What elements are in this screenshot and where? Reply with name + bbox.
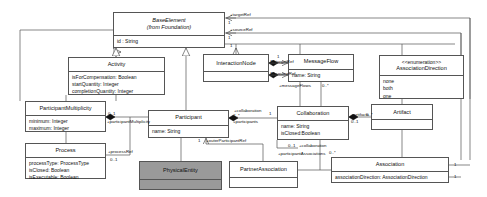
multiplicity-label: 1	[198, 139, 200, 143]
multiplicity-label: 0..*	[366, 113, 373, 117]
class-name-physical-entity: PhysicalEntity	[163, 167, 198, 174]
multiplicity-label: 0..1	[351, 120, 358, 124]
attributes-activity: isForCompensation: Boolean startQuantity…	[69, 71, 164, 94]
class-node-process[interactable]: Process processType: ProcessType isClose…	[25, 143, 106, 179]
multiplicity-label: 1	[269, 112, 271, 116]
attribute: name: String	[281, 123, 345, 130]
attribute: maximum: Integer	[29, 125, 102, 132]
multiplicity-label: 2..*	[233, 114, 240, 118]
attribute: associationDirection: AssociationDirecti…	[335, 174, 445, 181]
class-title-association-direction: <<enumeration>> AssociationDirection	[380, 56, 463, 75]
class-package-base-element: (from Foundation)	[147, 24, 191, 31]
multiplicity-label: 0..*	[329, 151, 336, 155]
attributes-interaction-node	[204, 71, 268, 81]
attributes-association: associationDirection: AssociationDirecti…	[332, 171, 448, 182]
multiplicity-label: 1	[270, 60, 272, 64]
class-name-artifact: Artifact	[393, 109, 410, 116]
class-node-association[interactable]: Association associationDirection: Associ…	[331, 157, 449, 183]
edge-label-participants: +participants	[233, 120, 258, 124]
enum-literal: one	[383, 93, 460, 100]
multiplicity-label: 0..*	[322, 84, 329, 88]
class-title-message-flow: MessageFlow	[289, 55, 353, 69]
attributes-collaboration: name: String isClosed:Boolean	[278, 120, 348, 139]
class-node-participant-multiplicity[interactable]: ParticipantMultiplicity minimum: Integer…	[25, 101, 106, 132]
class-node-interaction-node[interactable]: InteractionNode	[203, 54, 269, 82]
enum-literal: none	[383, 78, 460, 85]
attribute: name: String	[152, 128, 225, 135]
edge-label-collaboration-bottom: +collaboration	[299, 144, 326, 148]
class-name-message-flow: MessageFlow	[304, 58, 339, 65]
edge-label-participant-multiplicity: +participantMultiplicity	[107, 120, 150, 124]
class-title-activity: Activity	[69, 58, 164, 71]
multiplicity-label: 1	[230, 44, 232, 48]
class-title-participant: Participant	[149, 111, 228, 125]
edge-label-target-ref-mf: +targetRef	[273, 60, 294, 64]
edge-label-source-ref-mf: +sourceRef	[273, 72, 296, 76]
attributes-process: processType: ProcessType isClosed: Boole…	[26, 157, 105, 178]
class-name-collaboration: Collaboration	[297, 110, 330, 117]
attribute: isClosed:Boolean	[281, 130, 345, 137]
class-name-participant: Participant	[175, 114, 201, 121]
multiplicity-label: 1	[270, 72, 272, 76]
attributes-message-flow: name: String	[289, 69, 353, 81]
class-title-partner-association: PartnerAssociation	[230, 162, 297, 177]
class-node-message-flow[interactable]: MessageFlow name: String	[288, 54, 354, 82]
multiplicity-label: 1	[228, 36, 230, 40]
attributes-participant-multiplicity: minimum: Integer maximum: Integer	[26, 115, 105, 131]
attribute: minimum: Integer	[29, 118, 102, 125]
multiplicity-label: 1	[454, 175, 456, 179]
attribute: startQuantity: Integer	[72, 81, 161, 88]
multiplicity-label: 0..1	[110, 158, 117, 162]
attribute: isForCompensation: Boolean	[72, 74, 161, 81]
class-title-participant-multiplicity: ParticipantMultiplicity	[26, 102, 105, 115]
edge-label-target-ref-top: +targetRef	[230, 13, 251, 17]
multiplicity-label: 1	[277, 55, 279, 59]
class-title-collaboration: Collaboration	[278, 107, 348, 120]
class-name-participant-multiplicity: ParticipantMultiplicity	[39, 105, 91, 112]
diagram-canvas: BaseElement (from Foundation) id : Strin…	[0, 0, 487, 197]
attribute: isClosed: Boolean	[29, 167, 102, 174]
attributes-participant: name: String	[149, 125, 228, 137]
attributes-base-element: id : String	[114, 35, 224, 47]
class-node-artifact[interactable]: Artifact	[371, 104, 433, 130]
edge-label-outer-participant-ref: +outerParticipantRef	[206, 139, 246, 143]
class-title-physical-entity: PhysicalEntity	[140, 162, 221, 179]
class-title-process: Process	[26, 144, 105, 157]
edge-label-process-ref: +processRef	[108, 150, 133, 154]
attribute: processType: ProcessType	[29, 160, 102, 167]
attribute: isExecutable: Boolean	[29, 174, 102, 181]
class-node-association-direction[interactable]: <<enumeration>> AssociationDirection non…	[379, 55, 464, 99]
multiplicity-label: 0..1	[108, 112, 115, 116]
class-name-association-direction: AssociationDirection	[396, 65, 447, 72]
edge-label-source-ref-top: +sourceRef	[230, 28, 253, 32]
class-name-process: Process	[55, 147, 75, 154]
multiplicity-label: 1	[454, 163, 456, 167]
class-node-participant[interactable]: Participant name: String	[148, 110, 229, 138]
class-name-interaction-node: InteractionNode	[216, 60, 256, 67]
class-title-interaction-node: InteractionNode	[204, 55, 268, 71]
class-node-base-element[interactable]: BaseElement (from Foundation) id : Strin…	[113, 12, 225, 48]
class-name-base-element: BaseElement	[152, 17, 185, 24]
class-title-artifact: Artifact	[372, 105, 432, 119]
attributes-artifact	[372, 119, 432, 129]
multiplicity-label: 1	[228, 21, 230, 25]
attributes-partner-association	[230, 177, 297, 187]
class-name-activity: Activity	[108, 61, 126, 68]
class-node-partner-association[interactable]: PartnerAssociation	[229, 161, 298, 188]
class-node-physical-entity[interactable]: PhysicalEntity	[139, 161, 222, 190]
enum-literal: both	[383, 85, 460, 92]
attribute: name: String	[292, 72, 350, 79]
edge-label-participant-associations: +participantAssociations	[278, 152, 325, 156]
attribute: id : String	[117, 38, 221, 45]
class-node-activity[interactable]: Activity isForCompensation: Boolean star…	[68, 57, 165, 95]
class-node-collaboration[interactable]: Collaboration name: String isClosed:Bool…	[277, 106, 349, 140]
literals-association-direction: none both one	[380, 75, 463, 98]
edge-label-message-flows: +messageFlows	[279, 84, 311, 88]
attribute: completionQuantity: Integer	[72, 88, 161, 95]
class-title-association: Association	[332, 158, 448, 171]
attributes-physical-entity	[140, 179, 221, 189]
class-name-partner-association: PartnerAssociation	[240, 166, 287, 173]
multiplicity-label: 0..1	[288, 144, 295, 148]
class-name-association: Association	[376, 161, 405, 168]
class-title-base-element: BaseElement (from Foundation)	[114, 13, 224, 35]
